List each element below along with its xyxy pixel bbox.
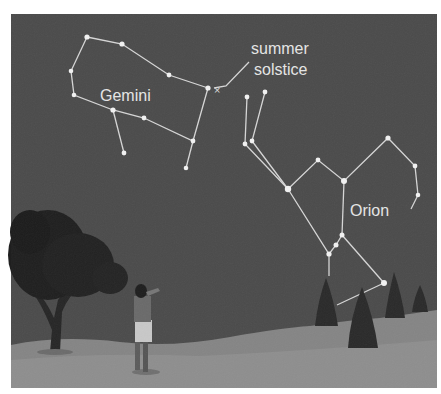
night-sky-illustration: × Gemini summer solstice Orion (0, 0, 441, 394)
